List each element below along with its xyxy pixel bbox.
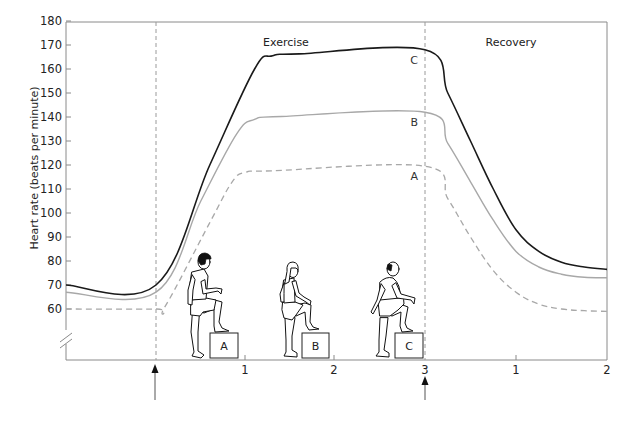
series-label-a: A [410, 170, 418, 183]
x-tick-recovery-1: 1 [512, 363, 519, 377]
y-tick-label: 100 [40, 206, 62, 220]
x-tick-exercise-2: 2 [330, 363, 337, 377]
svg-text:C: C [405, 340, 413, 353]
y-tick-label: 60 [47, 302, 62, 316]
svg-text:A: A [220, 340, 228, 353]
y-tick-label: 90 [47, 230, 62, 244]
y-tick-label: 140 [40, 110, 62, 124]
series-label-b: B [410, 116, 418, 129]
y-tick-label: 70 [47, 278, 62, 292]
y-tick-label: 160 [40, 62, 62, 76]
y-tick-label: 80 [47, 254, 62, 268]
arrow-up-icon [422, 376, 429, 400]
y-axis-title: Heart rate (beats per minute) [28, 86, 41, 249]
y-tick-label: 120 [40, 158, 62, 172]
y-tick-label: 150 [40, 86, 62, 100]
x-tick-recovery-2: 2 [603, 363, 610, 377]
series-b-line [66, 111, 607, 300]
y-tick-label: 110 [40, 182, 62, 196]
series-a-line [66, 165, 607, 314]
series-label-c: C [410, 54, 418, 67]
step-box-a: A [210, 333, 238, 358]
step-box-c: C [395, 333, 423, 358]
x-tick-exercise-3: 3 [421, 363, 428, 377]
step-box-b: B [302, 333, 329, 358]
y-tick-label: 180 [40, 14, 62, 28]
svg-text:B: B [312, 340, 320, 353]
x-tick-exercise-1: 1 [241, 363, 248, 377]
heart-rate-chart: 60708090100110120130140150160170180 1 2 … [0, 0, 636, 426]
region-label-exercise: Exercise [263, 36, 309, 49]
region-label-recovery: Recovery [485, 36, 536, 49]
y-tick-label: 130 [40, 134, 62, 148]
arrow-up-icon [152, 364, 159, 400]
series-c-line [66, 47, 607, 294]
y-tick-label: 170 [40, 38, 62, 52]
